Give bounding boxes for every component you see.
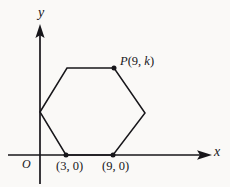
hexagon-shape	[40, 68, 145, 155]
y-axis-label: y	[38, 6, 44, 20]
point-label-p: P(9, k)	[120, 55, 154, 68]
origin-label: O	[22, 158, 31, 170]
point-label-p-close: )	[150, 54, 154, 68]
coordinate-plane-figure: y x O (3, 0) (9, 0) P(9, k)	[0, 0, 230, 187]
vertex-label-3-0: (3, 0)	[56, 160, 83, 173]
x-axis-label: x	[214, 145, 220, 159]
point-marker-3-0	[64, 153, 69, 158]
vertex-label-9-0: (9, 0)	[102, 160, 129, 173]
point-marker-p	[112, 66, 117, 71]
point-label-p-name: P	[120, 54, 128, 68]
point-marker-9-0	[111, 153, 116, 158]
point-label-p-open: (9,	[128, 54, 145, 68]
